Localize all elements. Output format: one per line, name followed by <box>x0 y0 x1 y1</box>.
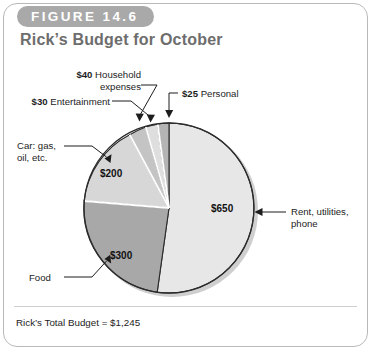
pie-slice-rent <box>157 123 254 293</box>
footer-divider <box>14 306 357 307</box>
label-rent-line1: Rent, utilities, <box>291 206 349 217</box>
value-rent: $650 <box>211 203 233 214</box>
label-household-text: Household <box>92 69 141 80</box>
label-entertainment-text: Entertainment <box>48 96 110 107</box>
label-car-line1: Car: gas, <box>17 140 56 151</box>
label-entertainment-amount: $30 <box>32 96 48 107</box>
label-household-amount: $40 <box>76 69 92 80</box>
label-household: $40 Household expenses <box>36 69 141 92</box>
pie-slice-food <box>84 201 169 292</box>
value-food: $300 <box>110 250 132 261</box>
figure-footer: Rick’s Total Budget = $1,245 <box>16 317 140 328</box>
label-car: Car: gas, oil, etc. <box>17 140 56 163</box>
value-car: $200 <box>100 168 122 179</box>
label-personal-text: Personal <box>198 88 239 99</box>
label-rent: Rent, utilities, phone <box>291 206 349 229</box>
label-car-line2: oil, etc. <box>17 152 47 163</box>
label-personal-amount: $25 <box>182 88 198 99</box>
label-household-text2: expenses <box>100 81 141 92</box>
label-entertainment: $30 Entertainment <box>0 96 110 108</box>
label-personal: $25 Personal <box>182 88 239 100</box>
label-food: Food <box>29 272 51 284</box>
pie-chart <box>0 0 373 351</box>
label-rent-line2: phone <box>291 218 318 229</box>
